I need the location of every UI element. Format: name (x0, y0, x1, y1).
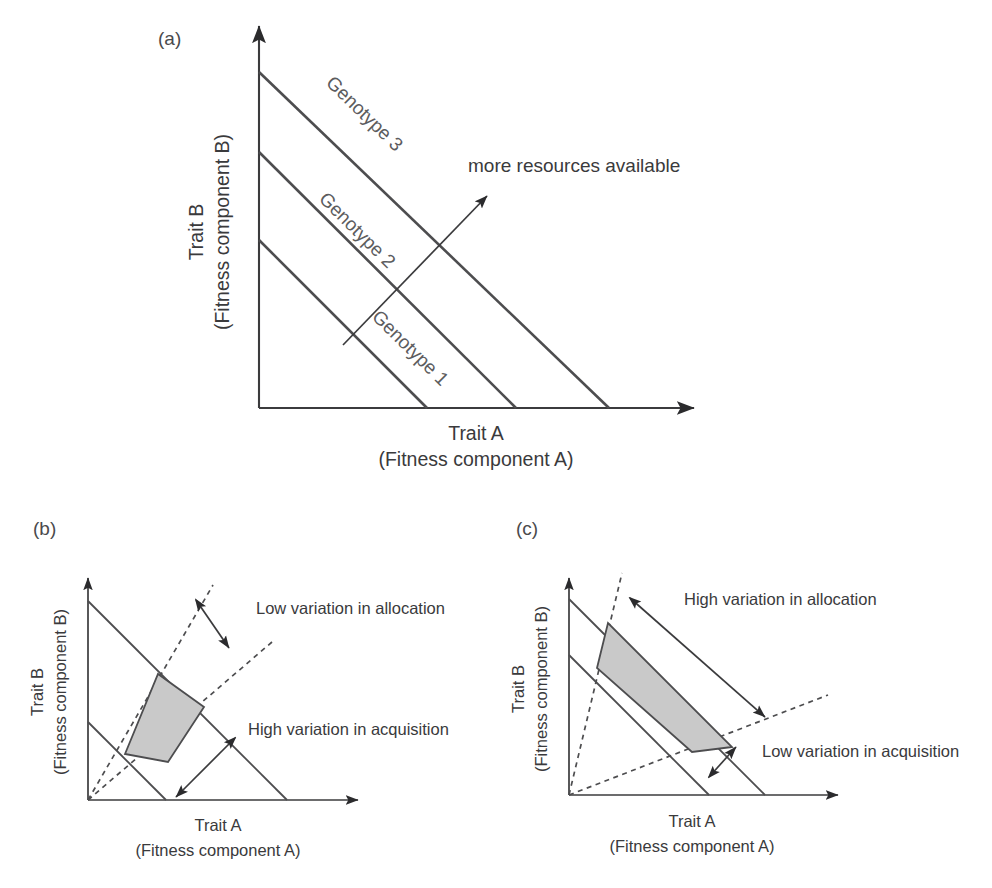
panel-c-x-axis-title-line1: Trait A (668, 812, 715, 830)
panel-b-allocation-arrow (196, 600, 229, 648)
panel-c-x-axis-title-line2: (Fitness component A) (609, 837, 774, 855)
panel-b-variation-region (125, 674, 204, 762)
panel-c-y-axis-title-line1: Trait B (509, 665, 527, 713)
panel-a-resources-label: more resources available (468, 155, 680, 176)
figure-canvas: (a) Genotype 1 Genotype 2 Genotype 3 mor… (0, 0, 992, 888)
panel-b-x-axis-title-line2: (Fitness component A) (135, 841, 300, 859)
panel-a-genotype-3-label: Genotype 3 (322, 72, 407, 156)
panel-b-y-axis-title-line2: (Fitness component B) (51, 609, 69, 775)
panel-c-y-axis-title-line2: (Fitness component B) (532, 606, 550, 772)
panel-c-allocation-label: High variation in allocation (684, 590, 877, 608)
panel-a-y-axis-title-line2: (Fitness component B) (211, 134, 233, 330)
panel-a-genotype-2-label: Genotype 2 (315, 188, 400, 272)
panel-a-label: (a) (158, 28, 181, 49)
panel-b-x-axis-title-line1: Trait A (194, 816, 241, 834)
panel-b-acquisition-arrow (176, 738, 235, 797)
panel-b-allocation-label: Low variation in allocation (256, 599, 445, 617)
panel-a-x-axis-title-line2: (Fitness component A) (378, 448, 573, 470)
panel-c-label: (c) (516, 518, 538, 539)
panel-c-variation-region (597, 623, 732, 752)
panel-a-x-axis-title-line1: Trait A (448, 422, 504, 444)
panel-b-label: (b) (33, 518, 56, 539)
panel-a: (a) Genotype 1 Genotype 2 Genotype 3 mor… (158, 26, 694, 470)
panel-b: (b) Low variation in allocation High var… (28, 518, 449, 859)
panel-a-y-axis-title-line1: Trait B (185, 204, 207, 261)
panel-a-genotype-1-label: Genotype 1 (368, 306, 453, 390)
panel-b-y-axis-title-line1: Trait B (28, 668, 46, 716)
panel-b-acquisition-label: High variation in acquisition (248, 720, 449, 738)
panel-c: (c) High variation in allocation Low var… (509, 518, 959, 855)
panel-c-acquisition-label: Low variation in acquisition (762, 742, 959, 760)
figure-root: (a) Genotype 1 Genotype 2 Genotype 3 mor… (0, 0, 992, 888)
